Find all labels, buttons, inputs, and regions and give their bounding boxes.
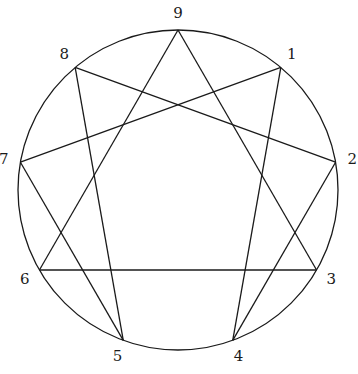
enneagram-diagram: 912345678 xyxy=(0,0,358,374)
connection-6-9 xyxy=(39,30,178,270)
point-label-2: 2 xyxy=(348,150,358,168)
point-label-8: 8 xyxy=(59,45,69,63)
point-label-7: 7 xyxy=(0,150,8,168)
point-label-1: 1 xyxy=(287,45,297,63)
point-label-9: 9 xyxy=(173,4,183,22)
point-label-5: 5 xyxy=(113,347,123,365)
enneagram-svg: 912345678 xyxy=(0,0,358,374)
connection-9-3 xyxy=(178,30,317,270)
point-label-4: 4 xyxy=(234,347,244,365)
outer-circle xyxy=(18,30,338,350)
point-label-6: 6 xyxy=(20,270,30,288)
point-label-3: 3 xyxy=(327,270,337,288)
